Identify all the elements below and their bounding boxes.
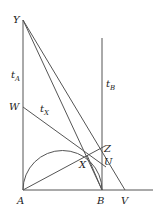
line-y-b [23,20,102,190]
label-t-a: tA [11,69,20,83]
geometry-diagram: Y W A B V Z U X tA tB tX [0,0,164,215]
label-v: V [121,195,130,206]
label-t-x: tX [40,103,50,117]
label-u: U [104,156,113,167]
label-t-b: tB [106,78,115,92]
label-b: B [96,195,104,206]
label-z: Z [103,143,112,154]
label-x: X [78,159,87,170]
label-a: A [16,195,24,206]
label-w: W [9,101,20,112]
label-y: Y [13,14,21,25]
line-x-b [87,155,102,190]
